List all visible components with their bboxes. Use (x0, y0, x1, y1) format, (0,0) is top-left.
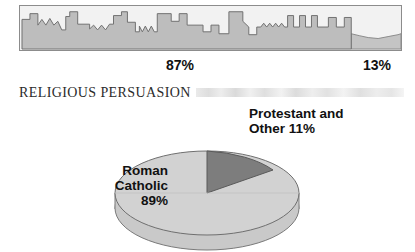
protestant-label-line1: Protestant and (249, 106, 344, 121)
urban-rural-panel (19, 5, 402, 51)
catholic-label-line2: Catholic (115, 178, 168, 193)
urban-percentage-label: 87% (166, 57, 194, 73)
urban-rural-chart (20, 6, 401, 50)
catholic-label-line1: Roman (122, 163, 168, 178)
rural-percentage-label: 13% (363, 57, 391, 73)
heading-decorative-rule (196, 88, 404, 97)
pie-label-protestant-other: Protestant and Other 11% (249, 106, 389, 136)
catholic-label-line3: 89% (141, 193, 168, 208)
pie-label-roman-catholic: Roman Catholic 89% (8, 163, 168, 208)
section-heading: RELIGIOUS PERSUASION (19, 85, 191, 101)
city-skyline-icon (22, 12, 351, 49)
protestant-label-line2: Other 11% (249, 121, 315, 136)
